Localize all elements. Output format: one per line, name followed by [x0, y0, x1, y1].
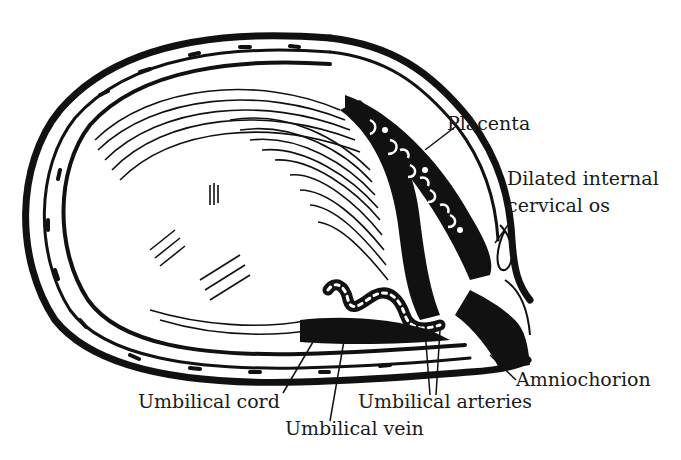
label-dilated-os-line2: cervical os: [507, 192, 659, 219]
cavity-floor: [300, 318, 450, 344]
label-umbilical-arteries: Umbilical arteries: [358, 391, 532, 413]
label-umbilical-vein: Umbilical vein: [285, 418, 424, 440]
uterus-illustration: [0, 0, 681, 460]
label-dilated-internal-cervical-os: Dilated internal cervical os: [507, 165, 659, 219]
label-umbilical-cord: Umbilical cord: [138, 391, 280, 413]
label-dilated-os-line1: Dilated internal: [507, 165, 659, 192]
label-amniochorion: Amniochorion: [516, 369, 651, 391]
label-placenta: Placenta: [447, 113, 530, 135]
diagram-canvas: Placenta Dilated internal cervical os Am…: [0, 0, 681, 460]
